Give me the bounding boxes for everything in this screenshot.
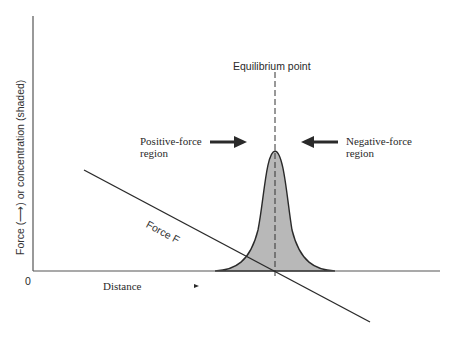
origin-label: 0 bbox=[25, 275, 31, 287]
distance-arrow-icon bbox=[150, 284, 199, 288]
equilibrium-label: Equilibrium point bbox=[233, 60, 311, 72]
positive-force-arrow-icon bbox=[210, 136, 247, 148]
force-line bbox=[84, 170, 370, 322]
negative-force-arrow-icon bbox=[301, 136, 338, 148]
negative-region-line2: region bbox=[346, 147, 412, 159]
positive-region-line1: Positive-force bbox=[140, 135, 202, 147]
x-axis-label: Distance bbox=[103, 280, 141, 292]
negative-region-line1: Negative-force bbox=[346, 135, 412, 147]
diagram-canvas bbox=[0, 0, 455, 337]
negative-force-region-label: Negative-force region bbox=[346, 135, 412, 159]
positive-force-region-label: Positive-force region bbox=[140, 135, 202, 159]
positive-region-line2: region bbox=[140, 147, 202, 159]
y-axis-label: Force (⟶) or concentration (shaded) bbox=[14, 80, 26, 255]
